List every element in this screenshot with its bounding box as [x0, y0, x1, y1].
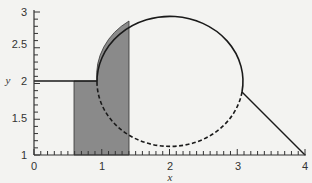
shaded-region: [74, 21, 129, 155]
y-tick-label-1: 1: [21, 149, 27, 161]
y-axis-title: y: [5, 74, 11, 86]
x-axis-title: x: [167, 171, 173, 183]
x-tick-label-0: 0: [31, 160, 37, 172]
y-ticks: [34, 12, 40, 155]
chart: 0 1 2 3 4 1 1.5 2 2.5 3 x y: [0, 0, 312, 183]
y-tick-label-3: 3: [21, 6, 27, 18]
y-tick-label-1.5: 1.5: [12, 112, 27, 124]
x-tick-label-1: 1: [99, 160, 105, 172]
x-tick-label-3: 3: [235, 160, 241, 172]
y-tick-label-2.5: 2.5: [12, 38, 27, 50]
y-tick-label-2: 2: [21, 75, 27, 87]
diagonal-segment: [242, 92, 305, 155]
x-tick-label-4: 4: [302, 160, 308, 172]
